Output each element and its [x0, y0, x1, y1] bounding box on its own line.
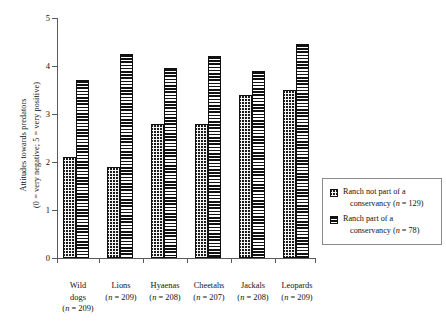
y-tick-label-2: 2 — [38, 158, 50, 166]
x-label-hyaenas-n-value: 208 — [165, 293, 178, 302]
bar-cheetahs-not-conservancy — [195, 124, 208, 258]
legend-swatch-striped-icon — [330, 216, 338, 224]
bar-wild-dogs-not-conservancy — [63, 157, 76, 258]
y-axis-line — [57, 18, 58, 259]
bar-lions-not-conservancy — [107, 167, 120, 258]
x-label-leopards-n-value: 209 — [297, 293, 310, 302]
x-tick-5 — [275, 259, 276, 263]
legend-swatch-checkered-icon — [330, 189, 338, 197]
x-tick-4 — [231, 259, 232, 263]
y-tick-label-1: 1 — [38, 206, 50, 214]
legend-label-not-conservancy: Ranch not part of a conservancy (n = 129… — [343, 186, 441, 209]
x-tick-0 — [57, 259, 58, 263]
x-label-leopards: Leopards (n = 209) — [267, 280, 327, 303]
legend-label-conservancy-line1: Ranch part of a — [343, 213, 441, 225]
legend-label-not-conservancy-line1: Ranch not part of a — [343, 186, 441, 198]
legend: Ranch not part of a conservancy (n = 129… — [322, 178, 442, 245]
legend-label-conservancy: Ranch part of a conservancy (n = 78) — [343, 213, 441, 236]
y-tick-label-5: 5 — [38, 14, 50, 22]
x-label-cheetahs-n-value: 207 — [209, 293, 222, 302]
y-axis-title-line1: Attitudes towards predators — [17, 30, 30, 260]
plot-area: 0 1 2 3 4 5 — [58, 18, 316, 258]
bar-jackals-conservancy — [252, 71, 265, 258]
bar-hyaenas-not-conservancy — [151, 124, 164, 258]
bar-hyaenas-conservancy — [164, 68, 177, 258]
bar-wild-dogs-conservancy — [76, 80, 89, 258]
x-label-leopards-n: (n = 209) — [267, 292, 327, 304]
y-tick-label-4: 4 — [38, 62, 50, 70]
x-tick-2 — [143, 259, 144, 263]
x-label-wild-dogs-n: (n = 209) — [48, 303, 108, 315]
bar-leopards-not-conservancy — [283, 90, 296, 258]
y-tick-3 — [52, 114, 57, 115]
bar-chart: Attitudes towards predators (0 = very ne… — [0, 0, 446, 323]
legend-label-conservancy-line2: conservancy (n = 78) — [343, 225, 441, 237]
x-tick-1 — [99, 259, 100, 263]
x-label-wild-dogs-n-value: 209 — [78, 304, 91, 313]
bar-leopards-conservancy — [296, 44, 309, 258]
y-tick-label-0: 0 — [38, 254, 50, 262]
y-tick-1 — [52, 210, 57, 211]
bar-lions-conservancy — [120, 54, 133, 258]
y-tick-label-3: 3 — [38, 110, 50, 118]
x-label-lions-n-value: 209 — [121, 293, 134, 302]
x-tick-6 — [315, 259, 316, 263]
legend-label-not-conservancy-line2: conservancy (n = 129) — [343, 198, 441, 210]
bar-cheetahs-conservancy — [208, 56, 221, 258]
y-tick-5 — [52, 18, 57, 19]
x-label-leopards-line1: Leopards — [267, 280, 327, 292]
bar-jackals-not-conservancy — [239, 95, 252, 258]
y-tick-4 — [52, 66, 57, 67]
y-tick-2 — [52, 162, 57, 163]
x-label-jackals-n-value: 208 — [253, 293, 266, 302]
x-tick-3 — [187, 259, 188, 263]
